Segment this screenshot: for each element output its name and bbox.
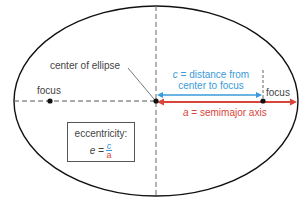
center-pointer bbox=[128, 68, 154, 99]
eccentricity-fraction: c a bbox=[106, 142, 113, 159]
eccentricity-title: eccentricity: bbox=[68, 128, 134, 139]
center-point bbox=[153, 98, 158, 103]
focus-right-point bbox=[260, 98, 265, 103]
eccentricity-box: eccentricity: e = c a bbox=[67, 122, 135, 162]
focus-right-label: focus bbox=[266, 88, 290, 98]
c-description: c = distance from center to focus bbox=[165, 70, 257, 91]
a-description: a = semimajor axis bbox=[183, 108, 267, 118]
c-desc-line1: = distance from bbox=[178, 69, 249, 80]
eccentricity-lhs: e = bbox=[90, 145, 104, 156]
focus-left-point bbox=[47, 98, 52, 103]
fraction-denominator: a bbox=[107, 151, 112, 159]
center-label: center of ellipse bbox=[50, 61, 120, 71]
ellipse-diagram bbox=[0, 0, 307, 205]
a-desc-text: = semimajor axis bbox=[189, 107, 267, 118]
a-arrow bbox=[157, 99, 297, 106]
c-arrow bbox=[157, 92, 262, 98]
focus-left-label: focus bbox=[37, 86, 61, 96]
eccentricity-formula: e = c a bbox=[68, 142, 134, 159]
c-desc-line2: center to focus bbox=[165, 81, 257, 91]
